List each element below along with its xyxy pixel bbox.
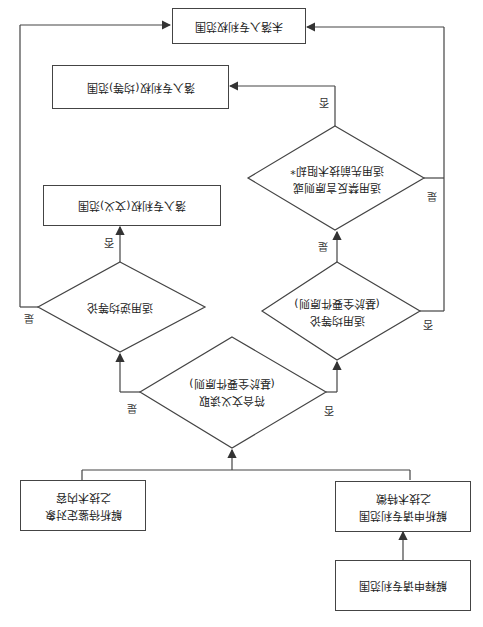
edge-label-yes-literal: 是	[127, 402, 137, 417]
analyze-claims-label: 解析申请专利范围之技术特徵	[359, 490, 447, 524]
not-infringing-box: 未落入专利权范围	[172, 8, 306, 44]
analyze-claims-box: 解析申请专利范围之技术特徵	[335, 481, 471, 532]
edge-label-yes-doe: 是	[318, 240, 328, 255]
analyze-accused-box: 解析待鉴定对象之技术内容	[20, 480, 146, 531]
edge-label-no-reverse: 否	[104, 236, 114, 251]
interpret-claims-label: 解释申请专利范围	[359, 578, 447, 593]
edge-label-no-doe: 否	[423, 318, 433, 333]
doe-label: 适用均等论(基於全要件原则)	[282, 295, 392, 329]
literal-reading-label: 符合文义读取(基於全要件原则)	[172, 375, 292, 409]
edge-label-no-estoppel: 否	[319, 96, 329, 111]
edge-label-yes-estoppel: 是	[427, 190, 437, 205]
literal-infringement-box: 落入专利权(文义)范围	[43, 185, 221, 226]
analyze-accused-label: 解析待鉴定对象之技术内容	[45, 489, 122, 523]
equivalent-infringement-label: 落入专利权(均等)范围	[87, 80, 195, 95]
reverse-doctrine-label: 适用逆均等论	[70, 300, 170, 315]
edge-label-no-literal: 否	[324, 404, 334, 419]
not-infringing-label: 未落入专利权范围	[195, 19, 283, 34]
literal-infringement-label: 落入专利权(文义)范围	[78, 198, 186, 213]
interpret-claims-box: 解释申请专利范围	[335, 560, 471, 611]
estoppel-label: 适用禁反言原则或适用先前技术阻却*	[262, 162, 412, 196]
edge-label-yes-reverse: 是	[24, 312, 34, 327]
equivalent-infringement-box: 落入专利权(均等)范围	[52, 65, 229, 109]
